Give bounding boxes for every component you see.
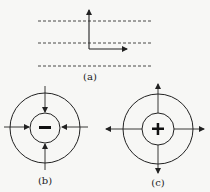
diagram-canvas: (a) (b) (c) xyxy=(0,0,210,192)
panel-c-label: (c) xyxy=(151,177,165,188)
panel-c: (c) xyxy=(106,84,204,188)
panel-a: (a) xyxy=(38,10,152,82)
panel-b: (b) xyxy=(4,86,88,186)
panel-a-label: (a) xyxy=(83,71,97,82)
minus-sign xyxy=(39,126,51,129)
panel-b-label: (b) xyxy=(38,175,52,186)
plus-sign-v xyxy=(157,123,160,135)
